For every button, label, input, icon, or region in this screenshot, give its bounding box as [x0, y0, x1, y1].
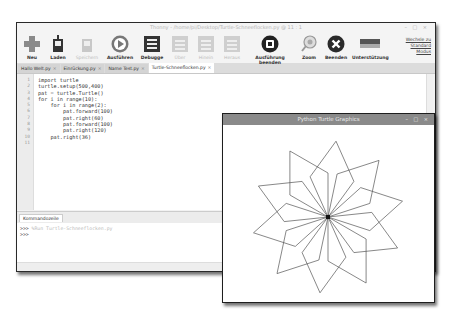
zoom-label: Zoom	[302, 55, 316, 60]
quit-button[interactable]: Beenden	[324, 35, 348, 60]
step-out-label: Heraus	[224, 55, 240, 60]
tab-einrueckung[interactable]: Einrückung.py×	[61, 64, 105, 73]
title-bar: Thonny - /home/pi/Desktop/Turtle-Schneef…	[17, 23, 435, 33]
support-label: Unterstützung	[352, 55, 389, 60]
run-button[interactable]: Ausführen	[106, 35, 134, 60]
tab-shell[interactable]: Kommandozeile	[19, 214, 63, 222]
step-over-button[interactable]: Über	[169, 35, 191, 60]
step-into-label: Hinein	[199, 55, 213, 60]
plus-icon	[23, 35, 41, 53]
magnifier-icon	[300, 35, 318, 53]
turtle-title-bar: Python Turtle Graphics – □ ×	[223, 114, 434, 125]
turtle-graphics-window: Python Turtle Graphics – □ ×	[222, 113, 435, 303]
shell-command: %Run Turtle-Schneeflocken.py	[32, 226, 113, 231]
code-area[interactable]: import turtle turtle.setup(500,400) pat …	[38, 77, 113, 140]
save-label: Speichern	[76, 55, 98, 60]
step-out-button[interactable]: Heraus	[221, 35, 243, 60]
window-title: Thonny - /home/pi/Desktop/Turtle-Schneef…	[17, 24, 435, 30]
close-tab-icon[interactable]: ×	[98, 66, 102, 71]
tab-turtle-schneeflocken[interactable]: Turtle-Schneeflocken.py×	[149, 63, 215, 73]
debug-button[interactable]: Debugge	[139, 35, 165, 60]
shell-prompt: >>>	[20, 232, 29, 237]
stop-label: Ausführung beenden	[255, 55, 285, 65]
switch-mode-link[interactable]: Wechsle zu Standard Modus	[406, 37, 431, 55]
new-label: Neu	[27, 55, 37, 60]
step-out-icon	[223, 35, 241, 53]
new-button[interactable]: Neu	[21, 35, 43, 60]
tab-label: Hallo Welt.py	[21, 66, 51, 71]
step-over-label: Über	[175, 55, 186, 60]
shell-prompt: >>>	[20, 226, 29, 231]
turtle-canvas	[223, 125, 434, 302]
support-button[interactable]: Unterstützung	[352, 35, 388, 60]
line-number: 11	[17, 140, 33, 146]
toolbar: Neu Laden Speichern Ausführen Debugge	[17, 33, 435, 63]
step-over-icon	[171, 35, 189, 53]
quit-label: Beenden	[325, 55, 347, 60]
debug-label: Debugge	[141, 55, 164, 60]
zoom-button[interactable]: Zoom	[299, 35, 319, 60]
tab-label: Turtle-Schneeflocken.py	[152, 65, 206, 70]
line-number-gutter: 1234567891011	[17, 74, 34, 210]
close-circle-icon	[327, 35, 345, 53]
run-label: Ausführen	[107, 55, 133, 60]
flag-icon	[360, 35, 380, 53]
close-tab-icon[interactable]: ×	[141, 66, 145, 71]
turtle-window-title: Python Turtle Graphics	[223, 116, 434, 122]
turtle-cursor-icon	[326, 215, 330, 219]
play-icon	[111, 35, 129, 53]
editor-tabs: Hallo Welt.py× Einrückung.py× Name Test.…	[17, 63, 435, 74]
stop-icon	[261, 35, 279, 53]
switch-mode-line-3: Modus	[406, 49, 431, 55]
tab-label: Einrückung.py	[64, 66, 96, 71]
close-tab-icon[interactable]: ×	[53, 66, 57, 71]
load-label: Laden	[50, 55, 65, 60]
step-into-icon	[197, 35, 215, 53]
tab-hallo-welt[interactable]: Hallo Welt.py×	[18, 64, 60, 73]
debug-icon	[143, 35, 161, 53]
save-button[interactable]: Speichern	[73, 35, 101, 60]
load-button[interactable]: Laden	[47, 35, 69, 60]
step-into-button[interactable]: Hinein	[195, 35, 217, 60]
tab-label: Name Test.py	[108, 66, 139, 71]
window-controls[interactable]: – □ ×	[404, 24, 429, 30]
turtle-window-controls[interactable]: – □ ×	[405, 116, 430, 122]
open-file-icon	[49, 35, 67, 53]
close-tab-icon[interactable]: ×	[208, 65, 212, 70]
save-icon	[78, 35, 96, 53]
stop-button[interactable]: Ausführung beenden	[245, 35, 295, 65]
tab-name-test[interactable]: Name Test.py×	[105, 64, 147, 73]
